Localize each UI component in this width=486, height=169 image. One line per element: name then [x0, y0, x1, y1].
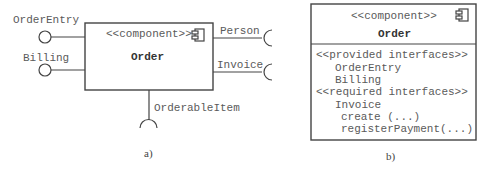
operation: registerPayment(...)	[341, 123, 473, 135]
diagram-b: <<component>> Order <<provided interface…	[311, 4, 476, 163]
socket-icon	[264, 64, 272, 80]
component-name: Order	[378, 28, 411, 40]
interface-label-invoice: Invoice	[217, 59, 263, 71]
provided-interface: Billing	[335, 74, 381, 86]
lollipop-icon	[39, 64, 51, 76]
component-name: Order	[131, 51, 164, 63]
diagram-a: <<component>> Order OrderEntry Billing P…	[13, 14, 272, 160]
component-diagram: <<component>> Order OrderEntry Billing P…	[0, 0, 486, 169]
lollipop-icon	[39, 31, 51, 43]
operation: create (...)	[341, 111, 420, 123]
caption-b: b)	[386, 150, 396, 163]
provided-interfaces-header: <<provided interfaces>>	[316, 49, 468, 61]
required-interfaces-header: <<required interfaces>>	[316, 86, 468, 98]
interface-label-billing: Billing	[23, 52, 69, 64]
interface-label-orderentry: OrderEntry	[13, 14, 79, 26]
required-interface: Invoice	[335, 99, 381, 111]
component-stereotype: <<component>>	[106, 28, 192, 40]
interface-label-person: Person	[220, 25, 260, 37]
caption-a: a)	[144, 147, 153, 160]
socket-icon	[264, 30, 272, 46]
provided-interface: OrderEntry	[335, 62, 401, 74]
component-stereotype: <<component>>	[351, 10, 437, 22]
socket-icon	[140, 120, 157, 129]
interface-label-orderableitem: OrderableItem	[154, 102, 240, 114]
